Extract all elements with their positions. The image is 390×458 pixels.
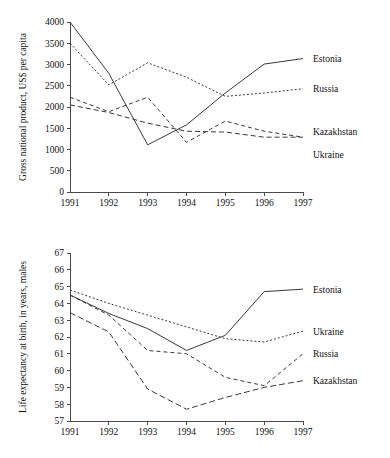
figure-page: 0500100015002000250030003500400019911992… (0, 0, 390, 458)
chart-gnp: 0500100015002000250030003500400019911992… (0, 0, 390, 228)
y-tick-label: 65 (55, 282, 65, 292)
y-axis-title: Gross national product, US$ per capita (18, 32, 28, 181)
y-tick-label: 3000 (45, 60, 64, 70)
y-tick-label: 59 (55, 383, 65, 393)
series-label-russia: Russia (313, 349, 339, 359)
series-label-kazakhstan: Kazakhstan (313, 127, 358, 137)
y-tick-label: 63 (55, 316, 65, 326)
x-tick-label: 1994 (177, 427, 196, 437)
y-tick-label: 1500 (45, 124, 64, 134)
y-tick-label: 66 (55, 265, 65, 275)
x-tick-label: 1996 (255, 427, 274, 437)
y-tick-label: 60 (55, 366, 65, 376)
series-line-estonia (70, 22, 303, 145)
series-label-estonia: Estonia (313, 285, 342, 295)
chart-life-expectancy: 5758596061626364656667199119921993199419… (0, 228, 390, 458)
x-tick-label: 1993 (138, 427, 157, 437)
x-tick-label: 1996 (255, 198, 274, 208)
x-tick-label: 1991 (61, 198, 80, 208)
x-tick-label: 1992 (99, 198, 118, 208)
series-line-russia (70, 295, 303, 386)
y-tick-label: 4000 (45, 17, 64, 27)
x-tick-label: 1997 (294, 427, 313, 437)
y-tick-label: 57 (55, 416, 65, 426)
series-label-russia: Russia (313, 84, 339, 94)
y-tick-label: 67 (55, 248, 65, 258)
y-tick-label: 2500 (45, 81, 64, 91)
series-label-estonia: Estonia (313, 54, 342, 64)
series-line-ukraine (70, 290, 303, 342)
series-label-ukraine: Ukraine (313, 150, 344, 160)
y-tick-label: 500 (50, 166, 65, 176)
series-line-russia (70, 43, 303, 96)
y-tick-label: 2000 (45, 102, 64, 112)
x-tick-label: 1993 (138, 198, 157, 208)
y-tick-label: 64 (55, 299, 65, 309)
y-tick-label: 3500 (45, 39, 64, 49)
y-tick-label: 62 (55, 332, 65, 342)
x-tick-label: 1992 (99, 427, 118, 437)
series-line-ukraine (70, 97, 303, 142)
chart-gnp-canvas: 0500100015002000250030003500400019911992… (0, 0, 390, 228)
series-line-kazakhstan (70, 313, 303, 410)
x-tick-label: 1994 (177, 198, 196, 208)
y-tick-label: 61 (55, 349, 65, 359)
x-tick-label: 1995 (216, 427, 235, 437)
series-label-ukraine: Ukraine (313, 327, 344, 337)
y-tick-label: 1000 (45, 145, 64, 155)
x-tick-label: 1991 (61, 427, 80, 437)
y-tick-label: 0 (59, 187, 64, 197)
y-tick-label: 58 (55, 400, 65, 410)
y-axis-title: Life expectancy at birth, in years, male… (18, 261, 28, 413)
series-label-kazakhstan: Kazakhstan (313, 376, 358, 386)
x-tick-label: 1997 (294, 198, 313, 208)
chart-life-expectancy-canvas: 5758596061626364656667199119921993199419… (0, 228, 390, 458)
x-tick-label: 1995 (216, 198, 235, 208)
